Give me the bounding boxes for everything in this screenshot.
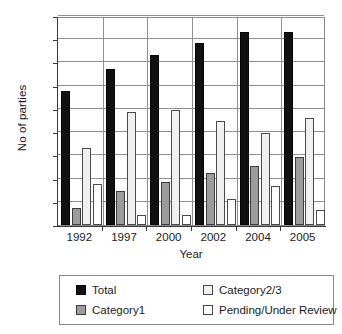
bar-1992-pending bbox=[93, 184, 102, 225]
bar-2005-pending bbox=[316, 210, 325, 225]
bar-2004-cat23 bbox=[261, 133, 270, 225]
x-tick-mark bbox=[280, 227, 281, 231]
legend-swatch-icon bbox=[76, 285, 86, 295]
bar-1997-total bbox=[106, 69, 115, 225]
bar-2000-cat23 bbox=[171, 110, 180, 225]
legend-item-pending-under-review[interactable]: Pending/Under Review bbox=[203, 304, 337, 316]
legend-label: Pending/Under Review bbox=[219, 304, 337, 316]
y-axis-title: No of parties bbox=[16, 58, 28, 178]
plot-area bbox=[57, 17, 325, 226]
legend-swatch-icon bbox=[76, 305, 86, 315]
x-tick-mark bbox=[102, 227, 103, 231]
legend-item-total[interactable]: Total bbox=[76, 284, 116, 296]
bar-1992-cat1 bbox=[72, 208, 81, 225]
bar-1992-total bbox=[61, 91, 70, 225]
bar-2004-pending bbox=[271, 186, 280, 225]
group-separator bbox=[103, 18, 104, 225]
bar-2005-total bbox=[284, 32, 293, 225]
group-separator bbox=[281, 18, 282, 225]
bar-2005-cat23 bbox=[305, 118, 314, 225]
legend-item-category1[interactable]: Category1 bbox=[76, 304, 145, 316]
y-tick-mark bbox=[53, 226, 58, 227]
gridline bbox=[58, 15, 324, 16]
legend-label: Category2/3 bbox=[219, 284, 282, 296]
legend-swatch-icon bbox=[203, 305, 213, 315]
y-tick-mark bbox=[53, 180, 58, 181]
group-separator bbox=[147, 18, 148, 225]
y-tick-mark bbox=[53, 63, 58, 64]
bar-2000-cat1 bbox=[161, 182, 170, 225]
group-separator bbox=[237, 18, 238, 225]
x-tick-mark bbox=[236, 227, 237, 231]
bar-2004-total bbox=[240, 32, 249, 225]
x-tick-mark bbox=[146, 227, 147, 231]
bar-2002-total bbox=[195, 43, 204, 225]
bar-2002-pending bbox=[227, 199, 236, 225]
y-tick-mark bbox=[53, 87, 58, 88]
y-tick-mark bbox=[53, 110, 58, 111]
y-tick-mark bbox=[53, 156, 58, 157]
bar-chart: No of parties 020406080100120140160180 1… bbox=[0, 0, 342, 334]
bar-2004-cat1 bbox=[250, 166, 259, 225]
legend-label: Total bbox=[92, 284, 116, 296]
x-axis-title: Year bbox=[57, 248, 325, 260]
bar-1997-cat1 bbox=[116, 191, 125, 225]
y-tick-mark bbox=[53, 133, 58, 134]
legend-label: Category1 bbox=[92, 304, 145, 316]
bar-1992-cat23 bbox=[82, 148, 91, 225]
x-tick-mark bbox=[191, 227, 192, 231]
y-tick-mark bbox=[53, 17, 58, 18]
bar-1997-cat23 bbox=[127, 112, 136, 225]
bar-2002-cat1 bbox=[206, 173, 215, 225]
y-tick-mark bbox=[53, 203, 58, 204]
legend-item-category2-3[interactable]: Category2/3 bbox=[203, 284, 282, 296]
y-tick-mark bbox=[53, 40, 58, 41]
group-separator bbox=[192, 18, 193, 225]
legend: TotalCategory2/3Category1Pending/Under R… bbox=[59, 275, 334, 325]
legend-swatch-icon bbox=[203, 285, 213, 295]
bar-2000-pending bbox=[182, 215, 191, 225]
bar-2005-cat1 bbox=[295, 157, 304, 226]
bar-2002-cat23 bbox=[216, 121, 225, 226]
bar-2000-total bbox=[150, 55, 159, 225]
bar-1997-pending bbox=[137, 215, 146, 225]
y-axis-line bbox=[57, 17, 58, 227]
x-tick-label: 2005 bbox=[275, 231, 331, 243]
